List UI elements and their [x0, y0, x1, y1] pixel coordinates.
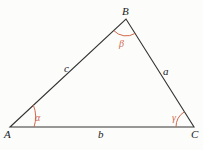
angle-arc-beta	[114, 31, 135, 36]
angle-label-alpha: α	[35, 112, 41, 123]
vertex-label-b: B	[122, 5, 129, 17]
vertex-label-a: A	[3, 128, 11, 140]
angle-label-beta: β	[118, 38, 124, 49]
triangle-svg: A B C a b c α β γ	[0, 0, 203, 150]
triangle-diagram: A B C a b c α β γ	[0, 0, 203, 150]
side-label-a: a	[163, 65, 169, 77]
vertex-label-c: C	[191, 128, 199, 140]
side-label-c: c	[64, 62, 69, 74]
side-label-b: b	[98, 128, 104, 140]
angle-arc-gamma	[176, 112, 184, 127]
angle-label-gamma: γ	[172, 112, 177, 123]
